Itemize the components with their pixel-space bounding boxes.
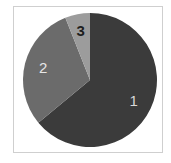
pie-chart: 123 [0,0,171,163]
slice-label-3: 3 [76,22,84,39]
slice-label-1: 1 [129,92,137,109]
slice-label-2: 2 [39,59,47,76]
